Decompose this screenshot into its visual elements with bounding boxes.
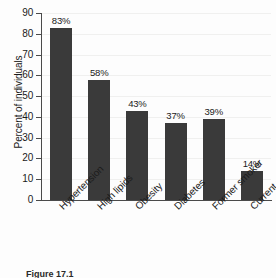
y-axis-title: Percent of individuals bbox=[14, 32, 24, 172]
y-tick-mark bbox=[36, 13, 42, 14]
y-tick-mark bbox=[36, 96, 42, 97]
y-tick-mark bbox=[36, 158, 42, 159]
y-tick-mark bbox=[36, 75, 42, 76]
figure-container: 83%58%43%37%39%14% 9080706050403020100 P… bbox=[0, 0, 276, 278]
y-tick-label: 90 bbox=[3, 8, 33, 18]
figure-caption-number: Figure 17.1 bbox=[26, 269, 74, 278]
y-tick-mark bbox=[36, 34, 42, 35]
bar-group: 43% bbox=[126, 13, 148, 200]
bar-group: 83% bbox=[50, 13, 72, 200]
gridline bbox=[42, 34, 271, 35]
y-tick-label: 10 bbox=[3, 174, 33, 184]
figure-caption: Figure 17.1 bbox=[26, 269, 276, 278]
y-tick-mark bbox=[36, 179, 42, 180]
plot-area: 83%58%43%37%39%14% bbox=[42, 13, 271, 200]
y-tick-mark bbox=[36, 138, 42, 139]
gridline bbox=[42, 13, 271, 14]
gridline bbox=[42, 96, 271, 97]
bar-value-label: 43% bbox=[114, 99, 160, 109]
gridline bbox=[42, 138, 271, 139]
y-tick-mark bbox=[36, 55, 42, 56]
bar-value-label: 39% bbox=[191, 107, 237, 117]
gridline bbox=[42, 55, 271, 56]
bar bbox=[203, 119, 225, 200]
bar-group: 37% bbox=[165, 13, 187, 200]
bar-value-label: 83% bbox=[38, 16, 84, 26]
bar bbox=[50, 28, 72, 200]
y-tick-label: 0 bbox=[3, 195, 33, 205]
bar-value-label: 58% bbox=[76, 68, 122, 78]
y-tick-mark bbox=[36, 200, 42, 201]
bar-group: 39% bbox=[203, 13, 225, 200]
bar bbox=[126, 111, 148, 200]
y-axis-line bbox=[41, 13, 42, 201]
y-tick-mark bbox=[36, 117, 42, 118]
bar bbox=[165, 123, 187, 200]
